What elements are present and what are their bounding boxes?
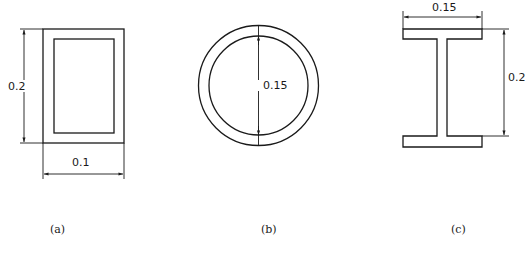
label-gap <box>256 80 261 91</box>
i-beam-outline <box>403 29 482 147</box>
cross-sections-figure: 0.2 0.1 (a) 0.15 (b) 0.15 0.2 (c) <box>0 0 525 253</box>
caption-b: (b) <box>261 223 277 236</box>
diameter-label: 0.15 <box>263 79 288 92</box>
panel-a-hollow-rectangle: 0.2 0.1 (a) <box>8 29 124 236</box>
panel-c-i-beam: 0.15 0.2 (c) <box>403 1 525 236</box>
width-label: 0.15 <box>432 1 457 14</box>
outer-rectangle <box>43 29 124 143</box>
height-label: 0.2 <box>8 80 26 93</box>
caption-a: (a) <box>50 223 65 236</box>
width-label: 0.1 <box>72 156 90 169</box>
inner-rectangle <box>54 39 114 133</box>
caption-c: (c) <box>451 223 466 236</box>
panel-b-hollow-circle: 0.15 (b) <box>199 26 319 237</box>
height-label: 0.2 <box>508 71 525 84</box>
